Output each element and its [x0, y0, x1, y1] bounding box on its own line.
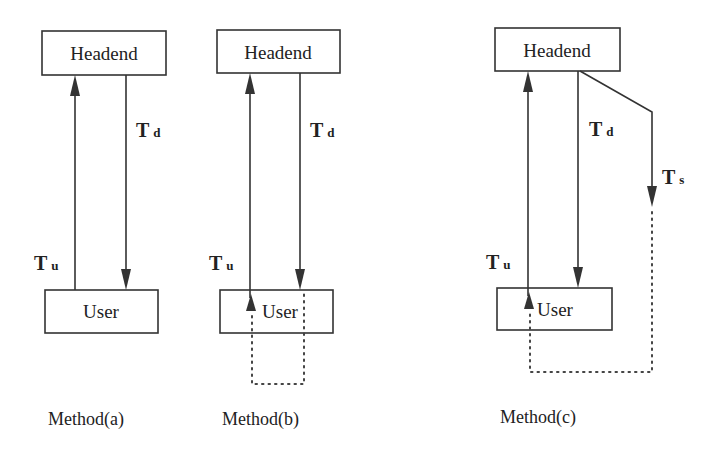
- td-label-a: Td: [136, 119, 161, 141]
- diagram-canvas: Headend User Td Tu Method(a) Headend Use…: [0, 0, 715, 458]
- ts-label-c: Ts: [662, 166, 684, 188]
- arrowhead-up-icon: [245, 73, 255, 94]
- arrowhead-down-icon: [573, 267, 583, 288]
- headend-label-a: Headend: [70, 43, 138, 64]
- headend-label-c: Headend: [523, 40, 591, 61]
- tu-label-c: Tu: [486, 251, 511, 273]
- panel-method-b: Headend User Td Tu Method(b): [209, 30, 340, 430]
- user-label-b: User: [262, 301, 299, 322]
- arrowhead-up-icon: [70, 75, 80, 96]
- caption-method-a: Method(a): [48, 409, 124, 430]
- caption-method-b: Method(b): [222, 409, 299, 430]
- td-label-c: Td: [589, 118, 614, 140]
- td-label-b: Td: [310, 119, 335, 141]
- arrowhead-down-icon: [647, 186, 657, 207]
- tu-label-b: Tu: [209, 252, 234, 274]
- panel-method-c: Headend User Td Ts Tu Method(c): [486, 28, 684, 428]
- arrowhead-up-icon: [523, 71, 533, 92]
- headend-label-b: Headend: [244, 42, 312, 63]
- caption-method-c: Method(c): [500, 407, 576, 428]
- tu-label-a: Tu: [34, 252, 59, 274]
- arrowhead-down-icon: [295, 269, 305, 290]
- arrowhead-down-icon: [121, 269, 131, 290]
- user-label-c: User: [537, 299, 574, 320]
- panel-method-a: Headend User Td Tu Method(a): [34, 31, 166, 430]
- user-label-a: User: [83, 301, 120, 322]
